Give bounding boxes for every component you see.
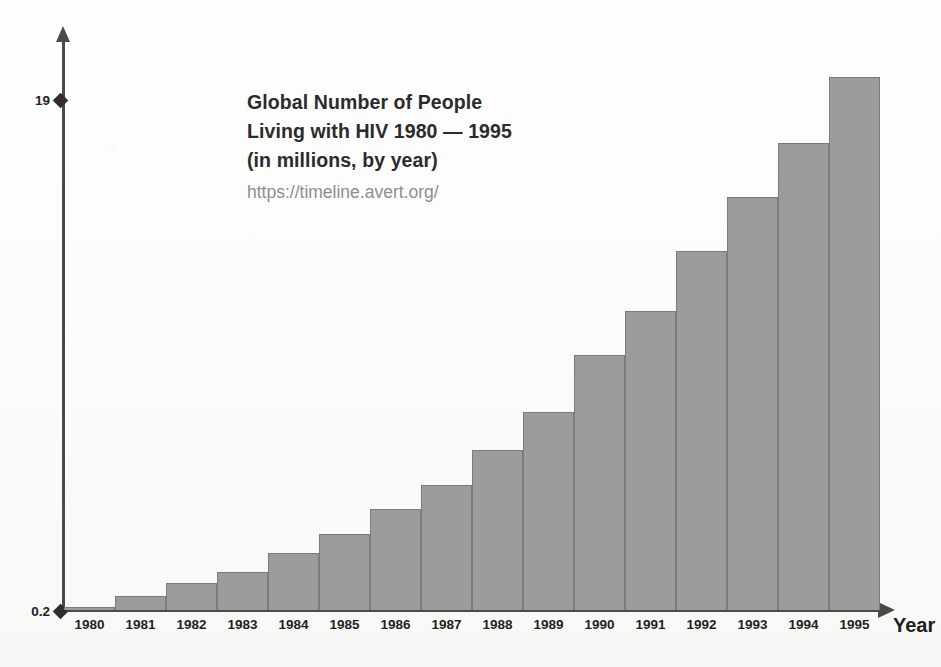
x-axis-tick-label-1981: 1981 <box>115 617 166 632</box>
x-axis-tick-label-1995: 1995 <box>829 617 880 632</box>
bar-1989 <box>523 412 574 610</box>
bar-1995 <box>829 77 880 610</box>
bar-1990 <box>574 355 625 611</box>
bar-1986 <box>370 509 421 610</box>
y-axis-tick-bottom-label: 0.2 <box>14 604 50 619</box>
x-axis-title: Year <box>893 614 935 637</box>
x-axis-tick-label-1982: 1982 <box>166 617 217 632</box>
x-axis-tick-label-1988: 1988 <box>472 617 523 632</box>
x-axis-tick-label-1983: 1983 <box>217 617 268 632</box>
bar-1985 <box>319 534 370 610</box>
bar-1980 <box>64 607 115 610</box>
x-axis-tick-label-1985: 1985 <box>319 617 370 632</box>
bar-1982 <box>166 583 217 610</box>
plot-area <box>64 38 880 610</box>
x-axis-tick-label-1993: 1993 <box>727 617 778 632</box>
x-axis-tick-label-1994: 1994 <box>778 617 829 632</box>
y-axis-tick-bottom: 0.2 <box>14 604 66 619</box>
bar-1987 <box>421 485 472 610</box>
hiv-bar-chart: Global Number of People Living with HIV … <box>0 0 941 667</box>
bar-1993 <box>727 197 778 610</box>
bar-1983 <box>217 572 268 610</box>
bar-1992 <box>676 251 727 610</box>
y-axis-tick-top: 19 <box>14 93 66 108</box>
x-axis-tick-label-1984: 1984 <box>268 617 319 632</box>
x-axis-tick-label-1990: 1990 <box>574 617 625 632</box>
bar-1984 <box>268 553 319 610</box>
x-axis-tick-label-1989: 1989 <box>523 617 574 632</box>
bars-container <box>64 38 880 610</box>
x-axis-tick-labels: 1980198119821983198419851986198719881989… <box>64 617 880 632</box>
bar-1981 <box>115 596 166 610</box>
bar-1988 <box>472 450 523 610</box>
bar-1994 <box>778 143 829 611</box>
x-axis-tick-label-1980: 1980 <box>64 617 115 632</box>
x-axis-tick-label-1987: 1987 <box>421 617 472 632</box>
x-axis-tick-label-1986: 1986 <box>370 617 421 632</box>
x-axis-tick-label-1992: 1992 <box>676 617 727 632</box>
bar-1991 <box>625 311 676 610</box>
x-axis-tick-label-1991: 1991 <box>625 617 676 632</box>
y-axis-tick-top-label: 19 <box>14 93 50 108</box>
